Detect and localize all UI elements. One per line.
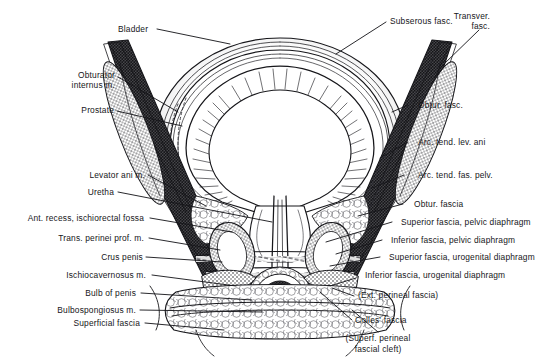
label-bladder: Bladder [118, 24, 148, 35]
label-obtur-fascia: Obtur. fascia [414, 199, 463, 210]
label-obturator-internus-line2: internus m. [0, 80, 115, 91]
label-superior-fascia-pelvic-diaphragm: Superior fascia, pelvic diaphragm [401, 217, 531, 228]
label-bulbospongiosus: Bulbospongiosus m. [0, 305, 136, 316]
label-prostate: Prostate [0, 105, 114, 116]
label-inferior-fascia-urogenital-diaphragm: Inferior fascia, urogenital diaphragm [365, 270, 505, 281]
label-colles-fascia: Colles' fascia [355, 315, 407, 326]
label-superf-perineal-cleft-line2: fascial cleft) [308, 344, 448, 355]
anatomical-figure: Bladder Obturator internus m. Prostate L… [0, 0, 547, 362]
label-superior-fascia-urogenital-diaphragm: Superior fascia, urogenital diaphragm [389, 252, 535, 263]
label-uretha: Uretha [0, 187, 114, 198]
label-arc-tend-fas-pelv: Arc. tend. fas. pelv. [418, 170, 493, 181]
label-trans-perinei-prof: Trans. perinei prof. m. [0, 233, 144, 244]
label-obtur-fasc: Obtur. fasc. [418, 100, 463, 111]
label-inferior-fascia-pelvic-diaphragm: Inferior fascia, pelvic diaphragm [391, 235, 515, 246]
label-arc-tend-lev-ani: Arc. tend. lev. ani [418, 137, 486, 148]
label-superf-perineal-cleft-line1: (Superf. perineal [308, 333, 448, 344]
label-ant-recess-ischiorectal-fossa: Ant. recess, ischiorectal fossa [0, 213, 144, 224]
label-bulb-of-penis: Bulb of penis [0, 288, 136, 299]
label-ext-perineal-fascia: (Ext. perineal fascia) [358, 290, 438, 301]
label-levator-ani: Levator ani m. [0, 170, 145, 181]
label-transver-fasc-line2: fasc. [430, 21, 490, 32]
label-obturator-internus-line1: Obturator [0, 70, 115, 81]
label-crus-penis: Crus penis [0, 252, 143, 263]
label-transver-fasc-line1: Transver. [430, 11, 490, 22]
label-superficial-fascia: Superficial fascia [0, 318, 140, 329]
label-ischiocavernosus: Ischiocavernosus m. [0, 270, 146, 281]
